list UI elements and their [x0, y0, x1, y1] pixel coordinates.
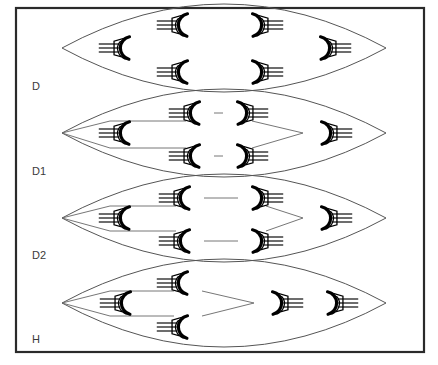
node-h-upper-arc	[178, 272, 187, 294]
node-d1-upper-inner-arc	[190, 102, 199, 124]
row-h-label: H	[32, 333, 40, 345]
row-d1-label: D1	[32, 165, 46, 177]
row-d2: D2	[32, 174, 386, 262]
node-d-left-arc	[120, 37, 129, 59]
link-h-lower-merge	[202, 303, 254, 316]
node-d2-right-arc	[322, 207, 331, 229]
node-d1-lower-inner-arc	[190, 145, 199, 167]
node-d1-left-arc	[120, 122, 129, 144]
node-d-upper-outer-arc	[253, 14, 262, 36]
node-h-middle-arc	[273, 292, 282, 314]
node-d1-upper-outer-arc	[238, 102, 247, 124]
row-d: D	[32, 4, 386, 92]
link-d1-lower-right	[252, 133, 303, 148]
node-d2-upper-outer-arc	[253, 187, 262, 209]
node-d2-left-arc	[120, 207, 129, 229]
row-d2-label: D2	[32, 249, 46, 261]
node-d2-upper-inner-arc	[180, 187, 189, 209]
diagram-svg: DD1D2H	[0, 0, 438, 365]
node-d-upper-inner-arc	[178, 14, 187, 36]
node-d1-lower-outer-arc	[238, 145, 247, 167]
node-h-left-arc	[121, 292, 130, 314]
row-d-label: D	[32, 80, 40, 92]
node-d-lower-inner-arc	[178, 61, 187, 83]
node-h-lower-arc	[178, 316, 187, 338]
link-d2-upper-right	[266, 206, 303, 218]
link-h-upper-merge	[202, 291, 254, 303]
link-d2-lower-right	[266, 218, 303, 231]
node-h-right-arc	[328, 292, 337, 314]
diagram-canvas: DD1D2H	[0, 0, 438, 365]
link-d1-upper-right	[252, 121, 303, 133]
node-d2-lower-outer-arc	[253, 230, 262, 252]
node-d-right-arc	[321, 37, 330, 59]
node-d2-lower-inner-arc	[180, 230, 189, 252]
node-d1-right-arc	[322, 122, 331, 144]
row-h: H	[32, 259, 386, 347]
row-d1: D1	[32, 89, 386, 177]
node-d-lower-outer-arc	[253, 61, 262, 83]
